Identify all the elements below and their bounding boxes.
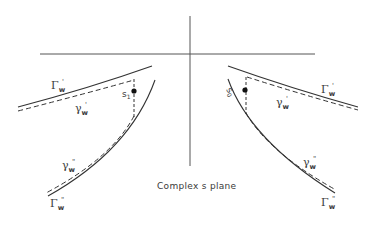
label-left-lower-gamma: γw" <box>62 160 75 171</box>
right-lower-contour-dashed <box>246 113 336 190</box>
left-lower-contour-solid <box>48 80 155 196</box>
complex-plane-diagram <box>0 0 373 226</box>
label-right-lower-Gamma: Γw" <box>321 197 335 208</box>
point-s0 <box>242 87 247 92</box>
label-left-upper-Gamma: Γw' <box>51 80 64 91</box>
label-right-lower-gamma: γw" <box>303 157 316 168</box>
label-point-s1: s1 <box>122 90 131 99</box>
point-s1 <box>131 88 136 93</box>
right-upper-contour-solid <box>228 66 358 107</box>
label-left-lower-Gamma: Γw" <box>50 198 64 209</box>
label-left-upper-gamma: γw' <box>75 103 87 114</box>
left-lower-contour-dashed <box>46 116 134 193</box>
label-right-upper-Gamma: Γw' <box>321 84 334 95</box>
diagram-caption: Complex s plane <box>157 181 236 191</box>
label-right-upper-gamma: γw' <box>276 97 288 108</box>
right-upper-contour-dashed <box>247 77 358 110</box>
